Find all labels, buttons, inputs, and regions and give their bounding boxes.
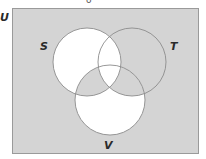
venn-diagram: o U S [0, 0, 206, 159]
label-s: S [40, 40, 48, 53]
label-v: V [104, 139, 114, 152]
label-u: U [0, 11, 9, 24]
top-cut-text: o [86, 0, 92, 5]
